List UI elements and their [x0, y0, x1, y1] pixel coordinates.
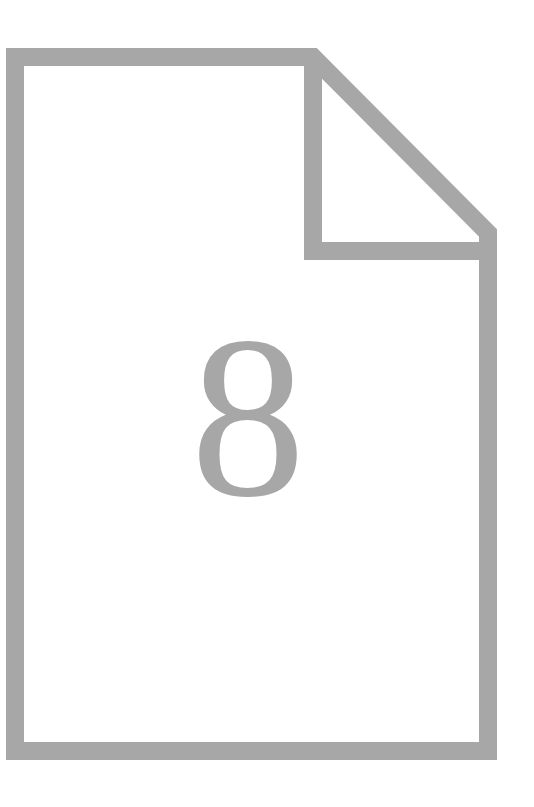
page-number: 8 [191, 290, 306, 545]
file-icon-canvas: 8 [0, 0, 534, 807]
file-document-with-folded-corner-icon[interactable]: 8 [0, 0, 534, 807]
